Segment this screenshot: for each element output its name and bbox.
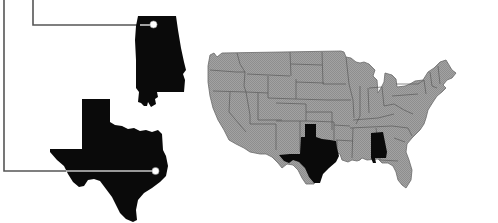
texas-callout-dot [152, 167, 159, 174]
alabama-callout-dot [150, 21, 157, 28]
texas-silhouette-icon [50, 99, 168, 222]
us-map [208, 51, 456, 188]
diagram-canvas [0, 0, 498, 223]
alabama-leader-line [33, 0, 140, 25]
alabama-silhouette-icon [135, 16, 186, 107]
us-states-callout-diagram [0, 0, 498, 223]
